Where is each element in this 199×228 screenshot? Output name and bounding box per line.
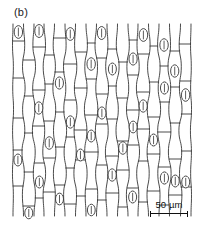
anticlinal-wall [43, 24, 46, 216]
stoma [108, 63, 116, 75]
stoma [35, 176, 43, 188]
stoma [160, 39, 168, 52]
stoma [14, 26, 22, 39]
scale-bar-caption: 50 µm [146, 199, 192, 210]
scale-bar-line [150, 213, 188, 214]
stoma [87, 130, 95, 142]
stoma [66, 28, 75, 41]
stoma [139, 29, 148, 42]
anticlinal-wall [116, 24, 119, 216]
anticlinal-wall [105, 24, 108, 216]
stoma [14, 154, 22, 166]
scale-bar: 50 µm [146, 199, 192, 218]
stoma [150, 134, 158, 146]
stoma [35, 102, 43, 114]
stoma [87, 58, 95, 71]
stoma [119, 142, 127, 155]
stoma [25, 207, 33, 219]
stoma [171, 175, 179, 187]
epidermis-line-drawing [0, 0, 199, 228]
scale-bar-cap-right [187, 211, 188, 217]
stoma [160, 82, 168, 94]
stoma [97, 27, 106, 40]
anticlinal-wall [53, 24, 56, 216]
figure-panel: (b) 50 µm [0, 0, 199, 228]
stoma [45, 137, 53, 150]
scale-bar-rule [146, 211, 192, 218]
stoma [129, 191, 137, 203]
stoma [55, 77, 63, 89]
stoma [98, 107, 106, 119]
stoma [129, 53, 137, 65]
stoma [76, 149, 84, 161]
stoma [108, 169, 116, 181]
anticlinal-wall [136, 24, 139, 216]
stoma [66, 116, 74, 128]
anticlinal-wall [12, 24, 13, 216]
stomata-layer [14, 25, 190, 219]
stoma [182, 176, 190, 188]
anticlinal-wall [32, 24, 35, 216]
stoma [181, 89, 189, 102]
stoma [35, 25, 44, 38]
anticlinal-wall [95, 24, 98, 216]
stoma [129, 121, 137, 133]
anticlinal-wall [168, 24, 171, 216]
stoma [87, 204, 95, 216]
stoma [139, 100, 147, 112]
anticlinal-wall [126, 24, 129, 216]
anticlinal-wall [84, 24, 87, 216]
stoma [160, 172, 168, 184]
anticlinal-wall [22, 24, 25, 216]
stoma [171, 65, 179, 77]
anticlinal-wall [158, 24, 161, 216]
anticlinal-wall [147, 24, 150, 216]
stoma [56, 193, 64, 205]
